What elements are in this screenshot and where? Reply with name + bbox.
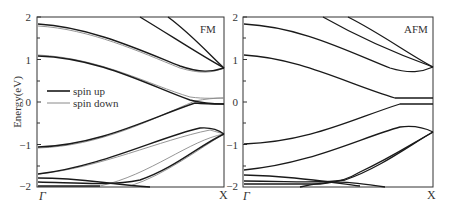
band-structure-chart: 2 1 0 −1 −2 Energy(eV) Γ X FM (0, 0, 449, 212)
afm-y-tick-neg2: −2 (226, 180, 238, 192)
afm-bands (244, 17, 433, 187)
fm-bands (38, 17, 224, 187)
afm-panel: 2 1 0 −1 −2 Γ X AFM (226, 11, 436, 203)
y-axis-label: Energy(eV) (11, 76, 24, 128)
afm-x-label: X (427, 188, 436, 202)
y-tick-neg2: −2 (19, 180, 31, 192)
afm-gamma-label: Γ (242, 189, 251, 203)
y-tick-0: 0 (26, 96, 32, 108)
afm-y-tick-0: 0 (233, 96, 239, 108)
fm-y-ticks (37, 17, 41, 166)
y-tick-neg1: −1 (19, 139, 31, 151)
legend-label-spin-up: spin up (73, 85, 106, 97)
legend-label-spin-down: spin down (73, 97, 119, 109)
afm-panel-label: AFM (404, 23, 428, 35)
legend: spin up spin down (47, 85, 119, 109)
afm-y-tick-neg1: −1 (226, 139, 238, 151)
afm-y-tick-1: 1 (233, 54, 239, 66)
fm-gamma-label: Γ (38, 189, 47, 203)
y-tick-1: 1 (26, 54, 32, 66)
y-tick-2: 2 (26, 11, 32, 23)
fm-panel-label: FM (200, 23, 216, 35)
fm-panel: 2 1 0 −1 −2 Energy(eV) Γ X FM (11, 11, 228, 203)
afm-y-tick-2: 2 (233, 11, 239, 23)
afm-plot-frame (243, 17, 433, 187)
